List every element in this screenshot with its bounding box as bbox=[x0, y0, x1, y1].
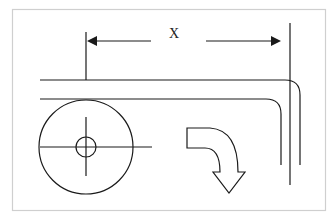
dimension-label: X bbox=[169, 26, 179, 41]
diagram-canvas: X bbox=[0, 0, 333, 219]
